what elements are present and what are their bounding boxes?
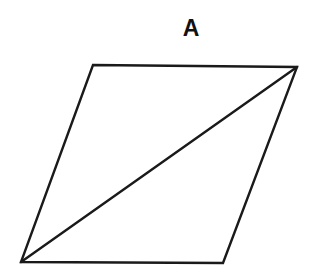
diagonal-line bbox=[21, 67, 297, 262]
parallelogram-diagram bbox=[0, 0, 314, 277]
